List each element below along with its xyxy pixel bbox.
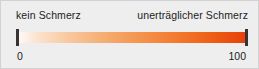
scale-value-row: 0 100 xyxy=(1,49,259,64)
scale-endpoint-tick-right xyxy=(245,29,248,46)
scale-value-min: 0 xyxy=(17,49,23,64)
scale-label-max: unerträglicher Schmerz xyxy=(137,8,248,23)
scale-label-row: kein Schmerz unerträglicher Schmerz xyxy=(1,8,259,23)
pain-scale-slider[interactable] xyxy=(18,32,246,43)
scale-endpoint-tick-left xyxy=(16,29,19,46)
scale-label-min: kein Schmerz xyxy=(16,8,81,23)
pain-scale-widget: kein Schmerz unerträglicher Schmerz 0 10… xyxy=(0,0,259,69)
gradient-bar[interactable] xyxy=(18,32,246,43)
scale-value-max: 100 xyxy=(228,49,246,64)
